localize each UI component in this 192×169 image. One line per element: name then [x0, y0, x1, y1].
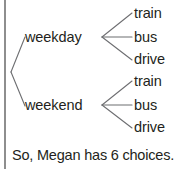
leaf-label-weekday-train: train	[134, 6, 162, 21]
weekday-branch-train	[102, 13, 132, 37]
root-branch-weekday	[11, 37, 25, 72]
leaf-label-weekend-train: train	[134, 74, 162, 89]
weekend-branch-drive	[102, 105, 132, 128]
leaf-label-weekday-bus: bus	[134, 30, 157, 45]
conclusion-text: So, Megan has 6 choices.	[12, 148, 174, 163]
weekend-branch-train	[102, 81, 132, 105]
node-label-weekend: weekend	[25, 98, 82, 113]
leaf-label-weekend-bus: bus	[134, 98, 157, 113]
leaf-label-weekend-drive: drive	[134, 120, 165, 135]
tree-diagram-figure: weekday weekend train bus drive train bu…	[0, 0, 192, 169]
node-label-weekday: weekday	[25, 30, 82, 45]
leaf-label-weekday-drive: drive	[134, 52, 165, 67]
weekday-branch-drive	[102, 37, 132, 60]
root-branch-weekend	[11, 72, 25, 106]
tree-branch-lines	[0, 0, 192, 169]
